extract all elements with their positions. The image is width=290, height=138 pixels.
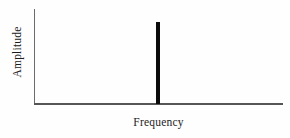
y-axis-line (34, 9, 35, 105)
x-axis-label: Frequency (133, 116, 183, 128)
spectrum-figure: Amplitude Frequency (0, 0, 290, 138)
plot-area (34, 9, 283, 105)
x-axis-label-container: Frequency (34, 112, 283, 130)
y-axis-label-container: Amplitude (0, 0, 32, 104)
spectral-spike-bar (156, 22, 160, 104)
y-axis-label: Amplitude (10, 27, 22, 78)
